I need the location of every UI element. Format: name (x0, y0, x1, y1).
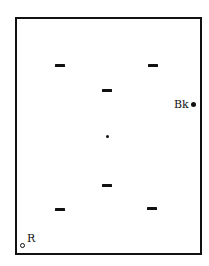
r-label: R (27, 233, 35, 244)
r-open-circle-icon (20, 243, 25, 248)
dash-mark-upper-center (102, 89, 112, 92)
dash-mark-top-left (55, 64, 65, 67)
bk-filled-dot-icon (191, 102, 196, 107)
dash-mark-bottom-right (147, 207, 157, 210)
bk-label: Bk (174, 99, 189, 110)
dash-mark-lower-center (102, 184, 112, 187)
center-dot (106, 135, 109, 138)
dash-mark-bottom-left (55, 208, 65, 211)
dash-mark-top-right (148, 64, 158, 67)
